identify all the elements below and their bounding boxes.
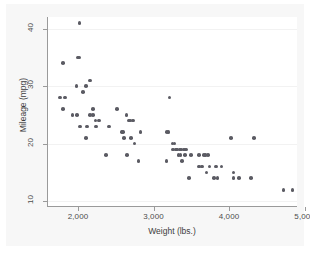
x-tick-label-4000: 4,000 (209, 212, 249, 221)
data-point (291, 188, 295, 192)
data-point (122, 136, 126, 140)
y-tick-20 (43, 144, 47, 145)
data-point (206, 153, 210, 157)
x-tick-2000 (78, 207, 79, 211)
data-point (91, 113, 95, 117)
data-point (85, 125, 89, 129)
y-axis-line (47, 17, 48, 207)
data-point (197, 153, 201, 157)
x-axis-line (47, 206, 297, 207)
data-point (184, 148, 188, 152)
data-point (75, 113, 79, 117)
data-point (104, 153, 108, 157)
x-tick-label-2000: 2,000 (58, 212, 98, 221)
data-point (229, 136, 233, 140)
data-point (88, 79, 92, 83)
data-point (84, 84, 88, 88)
data-point (282, 188, 286, 192)
data-point (237, 176, 241, 180)
gridline-y-10 (48, 201, 297, 202)
y-tick-10 (43, 201, 47, 202)
data-point (75, 84, 79, 88)
data-point (61, 61, 65, 65)
data-point (137, 159, 141, 163)
data-point (121, 130, 125, 134)
data-point (125, 153, 129, 157)
x-axis-title: Weight (lbs.) (47, 226, 297, 236)
x-tick-4000 (229, 207, 230, 211)
x-tick-label-3000: 3,000 (134, 212, 174, 221)
gridline-y-40 (48, 29, 297, 30)
y-tick-40 (43, 29, 47, 30)
data-point (81, 90, 85, 94)
data-point (252, 136, 256, 140)
data-point (94, 125, 98, 129)
data-point (78, 125, 82, 129)
y-tick-label-40: 40 (26, 16, 35, 38)
data-point (84, 136, 88, 140)
data-point (91, 107, 95, 111)
data-point (249, 176, 253, 180)
x-tick-label-5000: 5,000 (285, 212, 310, 221)
data-point (129, 136, 133, 140)
y-tick-label-10: 10 (26, 189, 35, 211)
data-point (107, 125, 111, 129)
data-point (125, 113, 129, 117)
data-point (189, 153, 193, 157)
x-tick-5000 (305, 207, 306, 211)
data-point (58, 96, 62, 100)
x-tick-3000 (154, 207, 155, 211)
chart-screenshot: 10203040 2,0003,0004,0005,000 Mileage (m… (0, 0, 310, 253)
data-point (78, 21, 82, 25)
plot-area (47, 17, 297, 207)
data-point (115, 107, 119, 111)
data-point (165, 159, 169, 163)
graph-region: 10203040 2,0003,0004,0005,000 Mileage (m… (6, 4, 304, 246)
data-point (61, 107, 65, 111)
data-point (183, 153, 187, 157)
data-point (180, 159, 184, 163)
data-point (187, 176, 191, 180)
y-axis-title: Mileage (mpg) (18, 60, 28, 150)
y-tick-30 (43, 86, 47, 87)
